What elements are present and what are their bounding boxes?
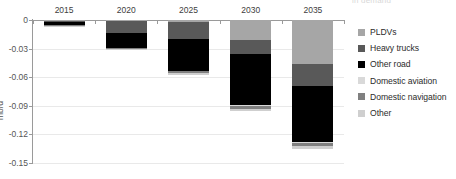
legend-swatch-icon — [358, 110, 365, 117]
legend-label: Other — [370, 108, 391, 118]
bar-segment[interactable] — [230, 20, 271, 40]
y-tick-label: -0.15 — [9, 158, 28, 168]
bar-segment[interactable] — [106, 33, 147, 48]
bar-segment[interactable] — [292, 20, 333, 64]
y-tick-mark — [29, 20, 33, 21]
bar-segment[interactable] — [292, 64, 333, 86]
x-tick-mark — [33, 20, 34, 24]
legend-item[interactable]: PLDVs — [358, 24, 456, 40]
bar-segment[interactable] — [168, 22, 209, 39]
y-tick-label: -0.06 — [9, 72, 28, 82]
x-tick-label: 2025 — [179, 5, 198, 15]
bar-segment[interactable] — [230, 40, 271, 54]
y-tick-mark — [29, 163, 33, 164]
gridline — [33, 163, 344, 164]
bar-segment[interactable] — [168, 73, 209, 74]
x-tick-mark — [282, 20, 283, 24]
x-tick-label: 2020 — [117, 5, 136, 15]
bar-segment[interactable] — [168, 39, 209, 71]
legend-label: Domestic aviation — [370, 76, 437, 86]
legend-label: Other road — [370, 59, 411, 69]
y-tick-mark — [29, 49, 33, 50]
y-tick-mark — [29, 134, 33, 135]
y-tick-mark — [29, 106, 33, 107]
bar-segment[interactable] — [292, 86, 333, 142]
y-axis-title: mb/d — [0, 101, 5, 120]
legend-item[interactable]: Domestic navigation — [358, 89, 456, 105]
legend-swatch-icon — [358, 45, 365, 52]
y-tick-label: -0.09 — [9, 101, 28, 111]
y-tick-label: -0.12 — [9, 129, 28, 139]
legend-swatch-icon — [358, 61, 365, 68]
x-tick-mark — [95, 20, 96, 24]
legend-swatch-icon — [358, 77, 365, 84]
legend-label: Domestic navigation — [370, 92, 446, 102]
x-tick-mark — [220, 20, 221, 24]
legend-item[interactable]: Heavy trucks — [358, 40, 456, 56]
y-tick-mark — [29, 77, 33, 78]
legend-swatch-icon — [358, 29, 365, 36]
bar-segment[interactable] — [230, 109, 271, 111]
legend-item[interactable]: Domestic aviation — [358, 73, 456, 89]
bar-segment[interactable] — [106, 21, 147, 33]
x-tick-mark — [344, 20, 345, 24]
legend-swatch-icon — [358, 93, 365, 100]
legend-label: PLDVs — [370, 27, 397, 37]
y-tick-label: -0.03 — [9, 44, 28, 54]
cropped-title-fragment: in demand — [352, 0, 391, 5]
x-tick-label: 2015 — [55, 5, 74, 15]
legend-label: Heavy trucks — [370, 43, 419, 53]
bar-segment[interactable] — [106, 49, 147, 50]
bar-chart: in demand 0-0.03-0.06-0.09-0.12-0.15 mb/… — [0, 0, 456, 179]
x-tick-label: 2035 — [303, 5, 322, 15]
bar-segment[interactable] — [292, 146, 333, 148]
legend-item[interactable]: Other — [358, 105, 456, 121]
x-tick-mark — [157, 20, 158, 24]
chart-legend: PLDVsHeavy trucksOther roadDomestic avia… — [358, 24, 456, 121]
y-tick-label: 0 — [23, 15, 28, 25]
x-tick-label: 2030 — [241, 5, 260, 15]
legend-item[interactable]: Other road — [358, 56, 456, 72]
y-axis-labels: 0-0.03-0.06-0.09-0.12-0.15 — [0, 0, 28, 179]
bar-segment[interactable] — [230, 54, 271, 105]
plot-area: 20152020202520302035 — [33, 20, 344, 163]
